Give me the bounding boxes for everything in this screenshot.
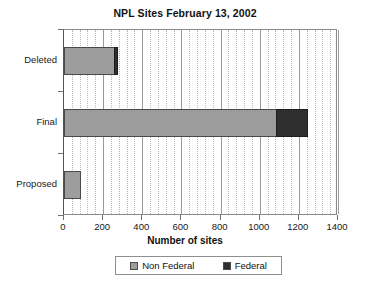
x-axis-tick-label: 0 [43,221,83,232]
bar-deleted [64,47,118,75]
x-axis-tick-label: 600 [160,221,200,232]
legend-swatch-icon-non-federal [130,262,138,270]
x-axis-tick [298,215,299,220]
x-axis-tick-label: 1400 [317,221,357,232]
legend-entry-federal: Federal [223,260,267,271]
legend-entry-non-federal: Non Federal [130,260,194,271]
bar-segment-non-federal [64,171,81,199]
chart-title: NPL Sites February 13, 2002 [0,7,370,19]
bars-layer [64,30,336,214]
x-axis-tick [220,215,221,220]
bar-chart: NPL Sites February 13, 2002 DeletedFinal… [0,0,370,287]
gridline-major [338,30,339,214]
x-axis-tick-label: 200 [82,221,122,232]
x-axis-tick [259,215,260,220]
chart-legend: Non Federal Federal [115,256,282,275]
y-axis-tick [58,91,63,92]
x-axis-tick-label: 1000 [239,221,279,232]
y-axis-tick [58,153,63,154]
y-axis-label-deleted: Deleted [24,54,57,65]
x-axis-tick [63,215,64,220]
legend-swatch-icon-federal [223,262,231,270]
x-axis-tick [337,215,338,220]
bar-segment-federal [276,109,308,137]
x-axis-tick-label: 400 [121,221,161,232]
x-axis-tick [141,215,142,220]
x-axis-title: Number of sites [0,235,370,246]
bar-proposed [64,171,81,199]
y-axis-label-final: Final [36,116,57,127]
legend-label-non-federal: Non Federal [142,260,194,271]
bar-final [64,109,308,137]
y-axis-tick [58,29,63,30]
bar-segment-non-federal [64,109,276,137]
x-axis-tick-label: 800 [200,221,240,232]
plot-area [63,29,337,215]
bar-segment-federal [114,47,118,75]
x-axis-tick [102,215,103,220]
legend-label-federal: Federal [235,260,267,271]
y-axis-label-proposed: Proposed [16,178,57,189]
bar-segment-non-federal [64,47,114,75]
x-axis-tick [180,215,181,220]
x-axis-tick-label: 1200 [278,221,318,232]
